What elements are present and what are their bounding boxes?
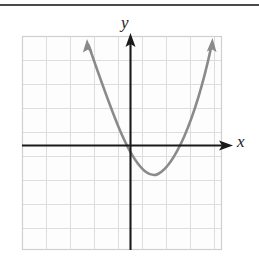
grid-background	[22, 36, 222, 250]
x-axis-label: x	[237, 133, 245, 150]
coordinate-plane	[0, 0, 259, 268]
parabola-figure: y x	[0, 0, 259, 268]
y-axis-label: y	[121, 14, 129, 31]
